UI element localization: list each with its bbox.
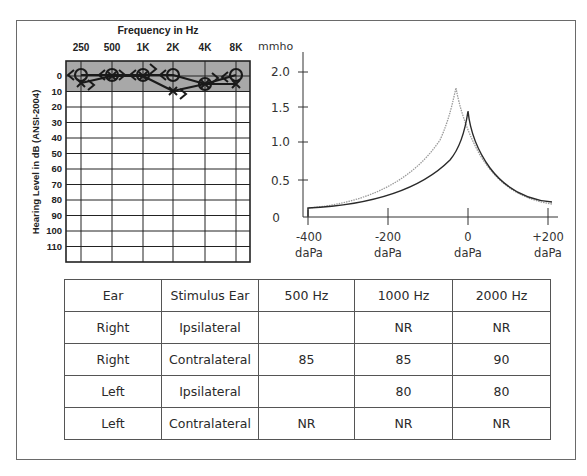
x-tick: +200 (532, 230, 564, 244)
table-header-row: Ear Stimulus Ear 500 Hz 1000 Hz 2000 Hz (65, 280, 551, 312)
table-cell: NR (355, 312, 453, 344)
db-label: 20 (51, 101, 62, 112)
db-label: 70 (51, 179, 62, 190)
freq-label: 500 (104, 42, 121, 53)
table-cell: Contralateral (162, 344, 259, 376)
x-tick: -400 (296, 230, 322, 244)
freq-label: 2K (167, 42, 181, 53)
table-cell: NR (259, 408, 355, 440)
audiogram-grid (66, 61, 250, 262)
db-label: 100 (46, 225, 62, 236)
x-tick: -200 (375, 230, 401, 244)
y-tick: 1.0 (271, 135, 290, 149)
x-unit: daPa (534, 246, 562, 260)
db-label: 90 (51, 210, 62, 221)
table-cell: Contralateral (162, 408, 259, 440)
freq-label: 4K (199, 42, 213, 53)
freq-label: 1K (137, 42, 151, 53)
db-label: 30 (51, 117, 62, 128)
table-cell: Right (65, 344, 162, 376)
table-row: Right Contralateral 85 85 90 (65, 344, 551, 376)
freq-label: 8K (230, 42, 244, 53)
tympanogram-curve-solid (308, 111, 552, 217)
table-cell: Left (65, 408, 162, 440)
table-row: Right Ipsilateral NR NR (65, 312, 551, 344)
table-row: Left Contralateral NR NR NR (65, 408, 551, 440)
audiogram-ylabel: Hearing Level in dB (ANSI-2004) (30, 90, 41, 235)
table-cell: 85 (355, 344, 453, 376)
header-cell: 2000 Hz (453, 280, 551, 312)
table-cell: Right (65, 312, 162, 344)
table-cell: NR (355, 408, 453, 440)
table-cell: Ipsilateral (162, 312, 259, 344)
x-tick: 0 (464, 230, 471, 244)
table-cell: 80 (355, 376, 453, 408)
x-unit: daPa (295, 246, 323, 260)
audiogram-title: Frequency in Hz (117, 24, 198, 36)
table-cell: 85 (259, 344, 355, 376)
db-label: 80 (51, 194, 62, 205)
y-tick: 0.5 (271, 174, 290, 188)
header-cell: 1000 Hz (355, 280, 453, 312)
tympanogram-axes (298, 52, 558, 225)
tympanogram: mmho 2.0 1.5 1.0 0.5 0 -400 -200 0 +200 … (258, 40, 564, 260)
x-unit: daPa (374, 246, 402, 260)
table-cell (259, 376, 355, 408)
y-tick: 2.0 (271, 65, 290, 79)
db-label: 50 (51, 148, 62, 159)
acoustic-reflex-table: Ear Stimulus Ear 500 Hz 1000 Hz 2000 Hz … (64, 279, 551, 440)
table-cell: Ipsilateral (162, 376, 259, 408)
tympanogram-x-ticks: -400 -200 0 +200 daPa daPa daPa daPa (295, 230, 564, 260)
frequency-labels: 250 500 1K 2K 4K 8K (73, 42, 244, 53)
table-cell: NR (453, 408, 551, 440)
table-row: Left Ipsilateral 80 80 (65, 376, 551, 408)
db-label: 10 (51, 86, 62, 97)
tympanogram-ylabel: mmho (258, 40, 293, 53)
header-cell: Stimulus Ear (162, 280, 259, 312)
header-cell: 500 Hz (259, 280, 355, 312)
table-cell: Left (65, 376, 162, 408)
db-label: 40 (51, 132, 62, 143)
x-unit: daPa (454, 246, 482, 260)
freq-label: 250 (73, 42, 90, 53)
reflex-table-wrap: Ear Stimulus Ear 500 Hz 1000 Hz 2000 Hz … (64, 279, 551, 440)
table-cell (259, 312, 355, 344)
y-tick: 0 (272, 211, 280, 225)
db-label: 110 (47, 241, 62, 252)
table-cell: 80 (453, 376, 551, 408)
tympanogram-y-ticks: 2.0 1.5 1.0 0.5 0 (271, 65, 290, 225)
y-tick: 1.5 (271, 101, 290, 115)
header-cell: Ear (65, 280, 162, 312)
db-label: 0 (57, 70, 62, 81)
db-labels: 0 10 20 30 40 50 60 70 80 90 100 110 (46, 70, 62, 252)
db-label: 60 (51, 163, 62, 174)
table-cell: NR (453, 312, 551, 344)
audiogram: Frequency in Hz 250 500 1K 2K 4K 8K (30, 24, 250, 262)
tympanogram-curve-dotted (308, 88, 552, 217)
table-cell: 90 (453, 344, 551, 376)
